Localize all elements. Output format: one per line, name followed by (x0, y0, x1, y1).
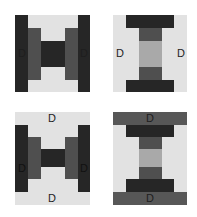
inner-left-bar (28, 28, 41, 80)
inner-bottom-bar (41, 167, 65, 179)
center-square (139, 41, 162, 67)
outer-left-bar (113, 125, 126, 192)
center-square (41, 149, 65, 167)
middle-top-bar (28, 125, 78, 137)
inner-left-bar (28, 137, 41, 179)
outer-bottom-bar (28, 80, 78, 92)
inner-top-bar (139, 28, 162, 41)
outer-left-bar (15, 125, 28, 192)
middle-top-bar (126, 125, 174, 137)
label-top: D (143, 113, 157, 124)
inner-right-bar (162, 137, 174, 179)
outer-top-bar (28, 15, 78, 28)
inner-right-bar (162, 28, 174, 80)
label-right: D (77, 163, 91, 174)
middle-bottom-bar (126, 179, 174, 192)
inner-bottom-bar (139, 67, 162, 80)
inner-left-bar (126, 28, 139, 80)
label-right: D (77, 48, 91, 59)
inner-bottom-bar (139, 167, 162, 179)
inner-top-bar (41, 28, 65, 41)
label-top: D (45, 113, 59, 124)
label-right: D (174, 48, 188, 59)
label-left: D (15, 48, 29, 59)
outer-bottom-bar (126, 80, 174, 92)
center-square (139, 149, 162, 167)
label-left: D (113, 48, 127, 59)
label-bottom: D (143, 193, 157, 204)
inner-top-bar (139, 137, 162, 149)
inner-left-bar (126, 137, 139, 179)
outer-right-bar (174, 125, 187, 192)
center-square (41, 41, 65, 67)
label-bottom: D (45, 193, 59, 204)
label-left: D (15, 163, 29, 174)
outer-right-bar (78, 125, 90, 192)
inner-top-bar (41, 137, 65, 149)
middle-bottom-bar (28, 179, 78, 192)
inner-bottom-bar (41, 67, 65, 80)
outer-top-bar (126, 15, 174, 28)
